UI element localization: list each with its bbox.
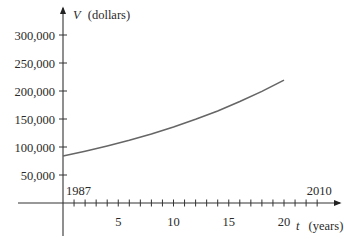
y-axis-variable: V	[73, 8, 82, 22]
y-tick-label: 300,000	[14, 29, 55, 43]
y-tick-label: 150,000	[14, 113, 55, 127]
year-annotation: 2010	[307, 184, 332, 198]
x-tick-label: 10	[167, 215, 180, 229]
year-annotation: 1987	[66, 184, 91, 198]
x-axis-unit: (years)	[309, 219, 344, 233]
x-tick-label: 20	[278, 215, 291, 229]
value-curve	[63, 80, 284, 156]
y-tick-label: 50,000	[21, 169, 55, 183]
y-tick-label: 250,000	[14, 57, 55, 71]
y-axis-unit: (dollars)	[88, 8, 130, 22]
x-tick-label: 5	[115, 215, 121, 229]
x-axis-tick-labels: 5101520	[115, 215, 290, 229]
chart: 5101520 50,000100,000150,000200,000250,0…	[0, 0, 344, 244]
y-tick-label: 100,000	[14, 141, 55, 155]
y-tick-label: 200,000	[14, 85, 55, 99]
x-tick-label: 15	[223, 215, 236, 229]
year-annotations: 19872010	[66, 184, 332, 198]
y-axis-title: V (dollars)	[73, 8, 130, 22]
x-axis-variable: t	[296, 219, 300, 233]
x-axis-title: t (years)	[296, 219, 343, 233]
y-axis-tick-labels: 50,000100,000150,000200,000250,000300,00…	[14, 29, 55, 183]
